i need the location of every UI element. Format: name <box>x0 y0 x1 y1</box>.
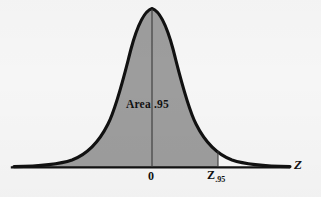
area-label: Area .95 <box>126 98 169 110</box>
critical-value-symbol: Z <box>207 168 215 182</box>
critical-value-subscript: .95 <box>215 175 225 184</box>
x-axis-label: Z <box>294 157 302 173</box>
shaded-area-region <box>14 9 218 167</box>
normal-distribution-figure: Area .95 0 Z.95 Z <box>0 0 321 197</box>
x-tick-label-zero: 0 <box>148 169 154 184</box>
critical-value-label: Z.95 <box>207 168 225 184</box>
